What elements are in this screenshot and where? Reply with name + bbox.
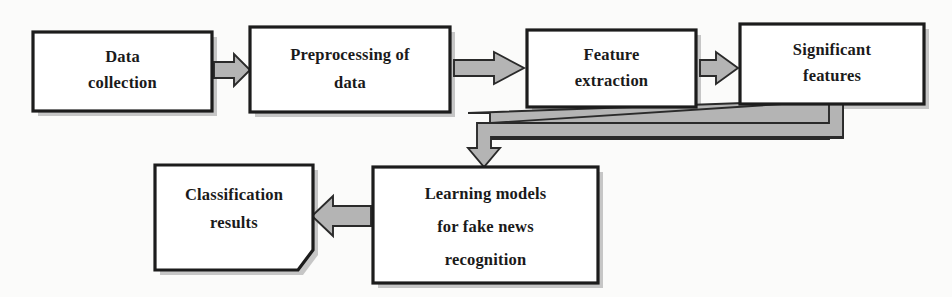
node-significant-features-rect[interactable] xyxy=(740,24,924,104)
node-preprocessing-of-data[interactable]: Preprocessing of data xyxy=(250,27,450,112)
node-significant-features[interactable]: Significant features xyxy=(740,24,924,104)
node-classification-results-line-2: results xyxy=(210,213,258,232)
node-data-collection-line-2: collection xyxy=(88,73,157,92)
node-feature-extraction-rect[interactable] xyxy=(527,30,696,107)
node-feature-extraction-line-2: extraction xyxy=(575,71,648,90)
arrow-data-collection-to-preprocessing xyxy=(214,54,250,86)
node-learning-models-line-1: Learning models xyxy=(425,184,547,203)
node-feature-extraction[interactable]: Feature extraction xyxy=(527,30,696,107)
node-significant-features-line-2: features xyxy=(803,66,861,85)
node-classification-results[interactable]: Classification results xyxy=(155,165,313,270)
node-data-collection[interactable]: Data collection xyxy=(33,32,212,111)
node-learning-models[interactable]: Learning models for fake news recognitio… xyxy=(373,167,598,283)
node-data-collection-rect[interactable] xyxy=(33,32,212,111)
node-classification-results-line-1: Classification xyxy=(185,185,283,204)
node-learning-models-line-2: for fake news xyxy=(437,217,534,236)
node-data-collection-line-1: Data xyxy=(105,47,140,66)
arrow-feature-extraction-to-significant-features xyxy=(700,52,738,84)
arrow-learning-models-to-classification-results xyxy=(312,196,371,236)
node-learning-models-line-3: recognition xyxy=(445,250,527,269)
flowchart-svg: Data collection Preprocessing of data Fe… xyxy=(0,0,952,297)
node-feature-extraction-line-1: Feature xyxy=(583,45,639,64)
node-significant-features-line-1: Significant xyxy=(793,40,872,59)
node-preprocessing-of-data-rect[interactable] xyxy=(250,27,450,112)
flowchart-canvas: Data collection Preprocessing of data Fe… xyxy=(0,0,952,297)
node-preprocessing-of-data-line-1: Preprocessing of xyxy=(290,45,410,64)
arrow-preprocessing-to-feature-extraction xyxy=(454,52,524,84)
node-preprocessing-of-data-line-2: data xyxy=(334,73,366,92)
